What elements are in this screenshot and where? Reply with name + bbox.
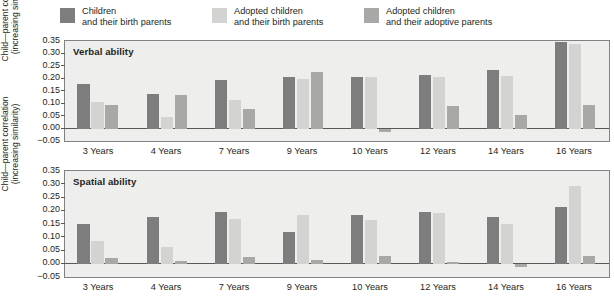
bar [487,217,500,263]
bar [147,217,160,263]
legend-label-line2: and their birth parents [234,17,323,27]
y-axis-title-line1: Child—parent correlation [0,0,10,68]
bar-group [405,171,473,277]
x-axis-label: 3 Years [64,146,132,156]
legend-entry-adopted-children-adoptive-parents: Adopted childrenand their adoptive paren… [364,6,534,29]
x-axis-label: 12 Years [404,282,472,292]
chart-figure: Childrenand their birth parents Adopted … [0,0,614,305]
bar [77,84,90,129]
bar [311,72,324,128]
y-axis-tick-mark [61,128,65,129]
y-axis-tick-mark [61,115,65,116]
bar-group [269,171,337,277]
legend-swatch-adopted-children-adoptive-parents [364,8,379,23]
bar-group [473,41,541,141]
legend-swatch-children-birth-parents [60,8,75,23]
y-axis-tick-mark [61,78,65,79]
y-axis-tick-label: 0.10 [30,232,60,241]
bar [433,213,446,263]
bar [161,117,174,128]
y-axis-tick-label: 0.10 [30,98,60,107]
plot-area-verbal-ability: Verbal ability [64,40,610,142]
legend-swatch-adopted-children-birth-parents [212,8,227,23]
y-axis-tick-mark [61,90,65,91]
legend-label-adopted-children-birth-parents: Adopted childrenand their birth parents [234,6,323,29]
bar [569,44,582,129]
legend-label-line1: Adopted children [386,6,455,16]
bar-group [541,171,609,277]
bar [501,76,514,129]
bar [379,129,392,132]
bar [175,261,188,264]
y-axis-tick-label: 0.35 [30,166,60,175]
y-axis-tick-label: 0.05 [30,245,60,254]
y-axis-tick-label: 0.35 [30,36,60,45]
y-axis-tick-label: 0.20 [30,73,60,82]
bar [379,256,392,264]
chart-panel-spatial-ability: Child—parent correlation (increasing sim… [0,166,614,305]
y-axis-tick-label: 0.15 [30,219,60,228]
bar [215,212,228,264]
bar [419,212,432,264]
y-axis-tick-mark [61,210,65,211]
x-axis-label: 7 Years [200,146,268,156]
legend-label-line2: and their birth parents [82,17,171,27]
bar [283,232,296,264]
bar [297,215,310,264]
legend-label-line1: Children [82,6,116,16]
legend-entry-children-birth-parents: Childrenand their birth parents [60,6,212,29]
bar [175,95,188,129]
x-axis-label: 9 Years [268,282,336,292]
y-axis-tick-mark [61,65,65,66]
bar-group [337,41,405,141]
bar [351,77,364,128]
bar [215,80,228,129]
bar-group [337,171,405,277]
y-axis-title: Child—parent correlation (increasing sim… [0,90,28,198]
bar-group [201,41,269,141]
y-axis-tick-label: 0.25 [30,192,60,201]
bar [433,77,446,128]
y-axis-tick-label: 0.25 [30,61,60,70]
bar [229,219,242,264]
y-axis-tick-mark [61,250,65,251]
x-axis-label: 4 Years [132,282,200,292]
bar-group [133,41,201,141]
bar [243,257,256,264]
bar [583,256,596,264]
bar [311,260,324,264]
y-axis-tick-label: −0.05 [30,136,60,145]
bar-group [269,41,337,141]
bars-container-spatial-ability [65,171,609,277]
bars-container-verbal-ability [65,41,609,141]
bar-group [473,171,541,277]
bar [147,94,160,129]
bar-group [65,171,133,277]
legend-label-line1: Adopted children [234,6,303,16]
bar [229,100,242,129]
legend-label-children-birth-parents: Childrenand their birth parents [82,6,171,29]
bar [487,70,500,129]
x-axis-label: 10 Years [336,146,404,156]
bar [351,215,364,264]
bar [105,105,118,129]
x-axis-label: 16 Years [540,282,608,292]
plot-area-spatial-ability: Spatial ability [64,170,610,278]
bar [77,224,90,264]
bar-group [65,41,133,141]
legend-label-adopted-children-adoptive-parents: Adopted childrenand their adoptive paren… [386,6,492,29]
bar-group [201,171,269,277]
bar [583,105,596,129]
x-axis-label: 14 Years [472,282,540,292]
y-axis-title: Child—parent correlation (increasing sim… [0,0,28,68]
bar [515,264,528,267]
x-axis-label: 9 Years [268,146,336,156]
x-axis-label: 14 Years [472,146,540,156]
bar [515,115,528,129]
bar [243,109,256,129]
y-axis-tick-mark [61,53,65,54]
y-axis-tick-mark [61,103,65,104]
bar [297,79,310,129]
y-axis-tick-label: 0.30 [30,179,60,188]
bar-group [541,41,609,141]
